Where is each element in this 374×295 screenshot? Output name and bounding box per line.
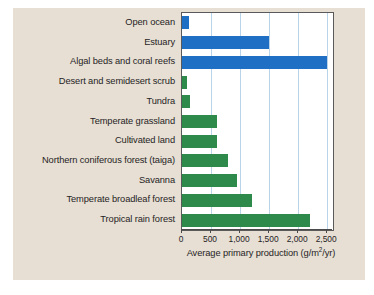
category-label: Temperate grassland [13,116,175,126]
bar-desert-and-semidesert-scrub [182,76,187,89]
bar-row [182,151,333,171]
x-tick-label: 1,500 [258,234,279,244]
x-tick-1000 [239,229,240,233]
bar-temperate-broadleaf-forest [182,194,252,207]
bar-row [182,52,333,72]
bar-row [182,191,333,211]
bar-row [182,33,333,53]
category-axis-labels: Open oceanEstuaryAlgal beds and coral re… [14,12,178,229]
category-label: Desert and semidesert scrub [13,76,175,86]
bar-row [182,72,333,92]
x-tick-2500 [326,229,327,233]
bar-row [182,13,333,33]
x-tick-0 [181,229,182,233]
x-tick-label: 0 [179,234,184,244]
bar-tropical-rain-forest [182,214,310,227]
bar-open-ocean [182,16,189,29]
bar-tundra [182,95,190,108]
plot-area [181,12,334,231]
category-label: Savanna [13,175,175,185]
x-tick-label: 2,000 [287,234,308,244]
category-label: Tropical rain forest [13,214,175,224]
x-axis-title: Average primary production (g/m2/yr) [171,248,351,259]
bar-algal-beds-and-coral-reefs [182,56,327,69]
bar-row [182,131,333,151]
bar-row [182,171,333,191]
bar-estuary [182,36,269,49]
figure-canvas: Open oceanEstuaryAlgal beds and coral re… [0,0,374,295]
x-axis-line [181,229,332,230]
category-label: Open ocean [13,17,175,27]
bar-savanna [182,174,237,187]
category-label: Northern coniferous forest (taiga) [13,155,175,165]
category-label: Estuary [13,37,175,47]
x-tick-label: 500 [203,234,217,244]
bar-temperate-grassland [182,115,217,128]
bar-northern-coniferous-forest-taiga [182,154,228,167]
category-label: Cultivated land [13,135,175,145]
x-tick-1500 [268,229,269,233]
bar-row [182,112,333,132]
category-label: Temperate broadleaf forest [13,194,175,204]
x-tick-2000 [297,229,298,233]
x-tick-label: 1,000 [229,234,250,244]
x-tick-500 [210,229,211,233]
bar-row [182,92,333,112]
bar-cultivated-land [182,135,217,148]
x-tick-label: 2,500 [316,234,337,244]
category-label: Algal beds and coral reefs [13,56,175,66]
category-label: Tundra [13,96,175,106]
bar-row [182,210,333,230]
